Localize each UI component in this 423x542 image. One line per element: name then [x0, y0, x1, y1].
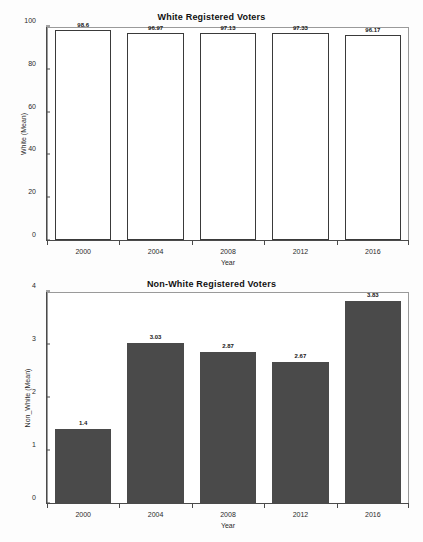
x-tick-label-2012: 2012	[264, 241, 336, 259]
y-tick-label: 20	[0, 188, 42, 195]
y-tick-label: 3	[0, 335, 42, 342]
x-axis-ticks-non-white: 20002004200820122016	[47, 504, 409, 522]
bar-non-white-2000[interactable]: 1.4	[55, 429, 111, 503]
bar-white-2004[interactable]: 96.97	[127, 33, 183, 240]
bar-value-label: 3.03	[150, 334, 162, 340]
chart-page: White Registered Voters White (Mean) 020…	[0, 0, 423, 542]
bar-white-2000[interactable]: 98.6	[55, 30, 111, 240]
y-tick-label: 0	[0, 494, 42, 501]
bar-series-white: 98.696.9797.1397.3396.17	[47, 27, 409, 240]
bar-slot-2012[interactable]: 2.67	[264, 292, 336, 503]
bar-slot-2012[interactable]: 97.33	[264, 27, 336, 240]
bar-slot-2004[interactable]: 96.97	[119, 27, 191, 240]
bar-slot-2016[interactable]: 3.83	[337, 292, 409, 503]
bar-value-label: 97.13	[221, 25, 236, 31]
bar-slot-2000[interactable]: 1.4	[47, 292, 119, 503]
x-tick-label-2004: 2004	[119, 504, 191, 522]
x-tick-label-2008: 2008	[192, 504, 264, 522]
x-tick-label-2016: 2016	[337, 504, 409, 522]
bar-slot-2008[interactable]: 97.13	[192, 27, 264, 240]
y-tick-label: 2	[0, 388, 42, 395]
bar-non-white-2008[interactable]: 2.87	[200, 352, 256, 503]
plot-non-white: Non_White (Mean) 01234 1.43.032.872.673.…	[0, 292, 423, 504]
bar-non-white-2012[interactable]: 2.67	[272, 362, 328, 503]
x-axis-ticks-white: 20002004200820122016	[47, 241, 409, 259]
bar-slot-2016[interactable]: 96.17	[337, 27, 409, 240]
bar-white-2012[interactable]: 97.33	[272, 33, 328, 240]
bar-non-white-2004[interactable]: 3.03	[127, 343, 183, 503]
bar-slot-2000[interactable]: 98.6	[47, 27, 119, 240]
bar-slot-2004[interactable]: 3.03	[119, 292, 191, 503]
x-tick-label-2000: 2000	[47, 241, 119, 259]
bar-value-label: 2.67	[295, 353, 307, 359]
x-tick-label-2016: 2016	[337, 241, 409, 259]
chart-title-white: White Registered Voters	[0, 0, 423, 16]
bar-white-2008[interactable]: 97.13	[200, 33, 256, 240]
chart-title-non-white: Non-White Registered Voters	[0, 271, 423, 287]
bar-value-label: 98.6	[77, 22, 89, 28]
bar-slot-2008[interactable]: 2.87	[192, 292, 264, 503]
x-tick-label-2008: 2008	[192, 241, 264, 259]
x-tick-label-2000: 2000	[47, 504, 119, 522]
x-tick-label-2004: 2004	[119, 241, 191, 259]
y-tick-label: 60	[0, 102, 42, 109]
bar-value-label: 2.87	[222, 343, 234, 349]
x-axis-label-non-white: Year	[47, 522, 409, 529]
x-tick-label-2012: 2012	[264, 504, 336, 522]
bar-non-white-2016[interactable]: 3.83	[345, 301, 401, 503]
bar-value-label: 96.17	[365, 27, 380, 33]
bar-series-non-white: 1.43.032.872.673.83	[47, 292, 409, 503]
y-tick-label: 40	[0, 145, 42, 152]
bar-white-2016[interactable]: 96.17	[345, 35, 401, 240]
y-tick-label: 1	[0, 441, 42, 448]
bar-value-label: 97.33	[293, 25, 308, 31]
bar-value-label: 1.4	[79, 420, 87, 426]
bar-value-label: 3.83	[367, 292, 379, 298]
y-tick-label: 0	[0, 231, 42, 238]
x-axis-label-white: Year	[47, 259, 409, 266]
y-tick-label: 100	[0, 17, 42, 24]
y-tick-label: 80	[0, 59, 42, 66]
y-axis-label-non-white: Non_White (Mean)	[24, 369, 31, 428]
bar-value-label: 96.97	[148, 25, 163, 31]
y-tick-label: 4	[0, 282, 42, 289]
plot-white: White (Mean) 020406080100 98.696.9797.13…	[0, 27, 423, 241]
chart-panel-white-registered-voters: White Registered Voters White (Mean) 020…	[0, 0, 423, 271]
